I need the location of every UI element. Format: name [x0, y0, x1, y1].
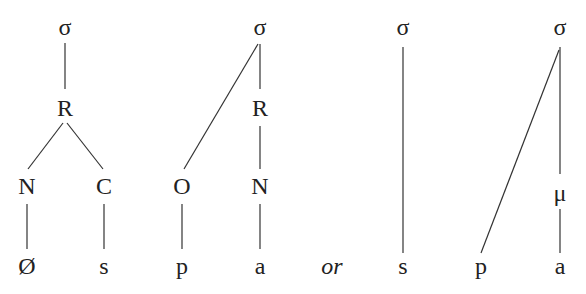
tree2-segment-a: a — [255, 254, 266, 278]
tree4-segment-a: a — [555, 254, 566, 278]
or-connector: or — [321, 254, 342, 278]
tree1-rhyme-node: R — [57, 96, 73, 120]
tree3-segment-s: s — [398, 254, 407, 278]
tree2-onset-node: O — [173, 174, 190, 198]
tree1-null-segment: Ø — [18, 254, 35, 278]
tree2-nucleus-node: N — [251, 174, 268, 198]
tree1-nucleus-node: N — [18, 174, 35, 198]
edge-sigma-p — [481, 50, 559, 253]
edge-R-N — [28, 123, 63, 169]
tree4-segment-p: p — [475, 254, 487, 278]
tree2-sigma-node: σ — [254, 15, 267, 39]
tree4-mora-node: μ — [554, 181, 567, 205]
tree1-segment-s: s — [99, 254, 108, 278]
tree1-coda-node: C — [96, 174, 112, 198]
tree4-sigma-node: σ — [554, 15, 567, 39]
tree-edges — [0, 0, 586, 294]
tree2-rhyme-node: R — [252, 96, 268, 120]
tree1-sigma-node: σ — [59, 15, 72, 39]
tree3-sigma-node: σ — [397, 15, 410, 39]
edge-sigma-O — [184, 44, 258, 169]
tree2-segment-p: p — [176, 254, 188, 278]
edge-R-C — [67, 123, 103, 169]
